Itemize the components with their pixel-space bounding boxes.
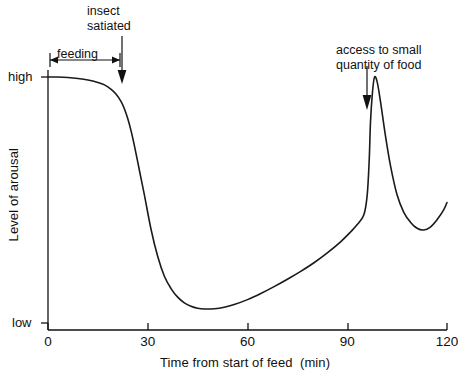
annotation-insect-line1: insect xyxy=(87,4,120,18)
annotation-insect-satiated: insectsatiated xyxy=(87,4,131,34)
annotation-access-line1: access to small xyxy=(336,43,421,57)
x-tick-label-60: 60 xyxy=(240,334,255,349)
x-axis-ticks xyxy=(48,323,447,330)
y-tick-label-low: low xyxy=(12,315,32,330)
access-food-arrow xyxy=(363,66,372,110)
annotation-insect-line2: satiated xyxy=(87,19,131,33)
feeding-arrow-right-head xyxy=(112,56,120,63)
annotation-access-to-food: access to smallquantity of food xyxy=(336,43,421,73)
annotation-feeding: feeding xyxy=(57,47,98,62)
arousal-vs-time-chart: Level of arousal Time from start of feed… xyxy=(0,0,474,379)
annotation-access-line2: quantity of food xyxy=(336,58,421,72)
y-axis-ticks xyxy=(41,77,48,323)
y-tick-label-high: high xyxy=(8,69,33,84)
x-axis-title: Time from start of feed (min) xyxy=(160,355,330,370)
x-tick-label-0: 0 xyxy=(44,334,52,349)
axis-lines xyxy=(48,70,447,330)
y-axis-title: Level of arousal xyxy=(6,148,21,241)
arousal-curve-line xyxy=(48,76,447,309)
access-arrow-head xyxy=(363,95,372,110)
insect-arrow-head xyxy=(118,70,127,84)
x-tick-label-120: 120 xyxy=(436,334,459,349)
x-tick-label-90: 90 xyxy=(340,334,355,349)
x-tick-label-30: 30 xyxy=(140,334,155,349)
